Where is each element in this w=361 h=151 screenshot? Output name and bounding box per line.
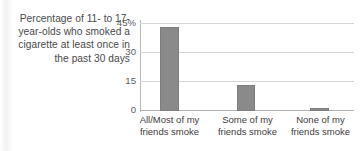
bar-all-most-friends-smoke[interactable] bbox=[160, 27, 179, 111]
category-label-none-line2: friends smoke bbox=[273, 126, 361, 138]
gridline-45 bbox=[140, 23, 354, 24]
y-tick-label-45: 45% bbox=[104, 18, 136, 28]
bar-some-friends-smoke[interactable] bbox=[237, 85, 255, 111]
category-label-none: None of my friends smoke bbox=[273, 114, 361, 139]
bar-none-friends-smoke[interactable] bbox=[310, 108, 329, 111]
plot-area bbox=[140, 23, 354, 111]
chart-figure: Percentage of 11- to 17-year-olds who sm… bbox=[0, 0, 361, 151]
x-axis-category-labels: All/Most of my friends smoke Some of my … bbox=[140, 114, 354, 146]
y-tick-label-30: 30 bbox=[104, 47, 136, 57]
y-tick-label-15: 15 bbox=[104, 76, 136, 86]
category-label-none-line1: None of my bbox=[273, 114, 361, 126]
